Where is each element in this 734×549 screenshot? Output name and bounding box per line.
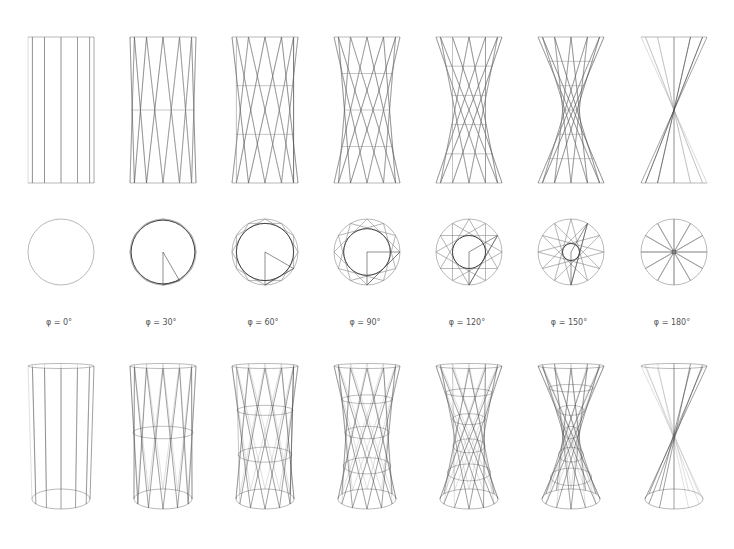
hyperboloid-diagram: φ = 0° φ = 30° φ = 60° φ = 90° φ = 120° … — [0, 0, 734, 549]
elevation-view — [538, 37, 604, 183]
phi-label-60: φ = 60° — [247, 318, 278, 327]
plan-view — [232, 219, 298, 285]
column-phi-120 — [436, 37, 502, 509]
perspective-view — [641, 364, 707, 510]
phi-label-30: φ = 30° — [145, 318, 176, 327]
elevation-view — [28, 37, 94, 183]
perspective-view — [130, 364, 196, 510]
perspective-view — [232, 364, 298, 510]
elevation-view — [130, 37, 196, 183]
phi-label-150: φ = 150° — [551, 318, 587, 327]
perspective-view — [28, 364, 94, 510]
elevation-view — [641, 37, 707, 183]
phi-label-90: φ = 90° — [349, 318, 380, 327]
perspective-view — [436, 364, 502, 510]
plan-view — [436, 219, 502, 285]
column-phi-90 — [334, 37, 400, 509]
diagram-canvas — [0, 0, 734, 549]
plan-view — [538, 219, 604, 285]
column-phi-30 — [130, 37, 196, 509]
plan-view — [28, 219, 94, 285]
phi-label-120: φ = 120° — [449, 318, 485, 327]
column-phi-180 — [641, 37, 707, 509]
phi-label-180: φ = 180° — [654, 318, 690, 327]
plan-view — [641, 219, 707, 285]
column-phi-0 — [28, 37, 94, 509]
elevation-view — [436, 37, 502, 183]
column-phi-150 — [538, 37, 604, 509]
elevation-view — [232, 37, 298, 183]
column-phi-60 — [232, 37, 298, 509]
plan-view — [334, 219, 400, 285]
plan-view — [130, 219, 196, 285]
perspective-view — [538, 364, 604, 510]
perspective-view — [334, 364, 400, 510]
elevation-view — [334, 37, 400, 183]
phi-label-0: φ = 0° — [46, 318, 72, 327]
